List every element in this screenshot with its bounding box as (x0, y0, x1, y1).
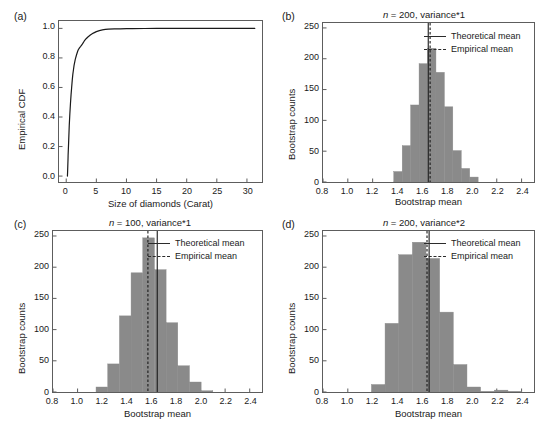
ytick-label: 150 (19, 292, 49, 302)
ytick-label: 200 (289, 261, 319, 271)
panel-a-curve-svg (59, 21, 262, 182)
xtick-label: 1.6 (408, 186, 436, 196)
xtick-label: 1.2 (358, 396, 386, 406)
ytick-label: 0 (19, 387, 49, 397)
panel-c-title-rest: = 100, variance*1 (114, 217, 191, 228)
xtick-label: 2.4 (508, 186, 536, 196)
panel-a-tag: (a) (14, 10, 27, 22)
ytick-label: 0 (289, 387, 319, 397)
xtick-label: 1.8 (433, 186, 461, 196)
ytick-label: 50 (289, 355, 319, 365)
panel-c: (c) n = 100, variance*1 Bootstrap counts… (0, 212, 274, 430)
xtick-label: 1.8 (162, 396, 190, 406)
legend-label-theoretical: Theoretical mean (451, 237, 521, 250)
xtick-label: 0.8 (38, 396, 66, 406)
legend-label-theoretical: Theoretical mean (175, 237, 245, 250)
xtick-label: 2.2 (483, 396, 511, 406)
panel-c-xlabel: Bootstrap mean (52, 408, 263, 419)
xtick-label: 1.4 (383, 186, 411, 196)
legend-label-theoretical: Theoretical mean (451, 30, 521, 43)
ytick-label: 250 (289, 21, 319, 31)
panel-c-title: n = 100, variance*1 (45, 217, 255, 228)
xtick-label: 2.4 (508, 396, 536, 406)
xtick-label: 1.0 (333, 396, 361, 406)
ytick-label: 200 (19, 261, 49, 271)
legend-label-empirical: Empirical mean (175, 250, 237, 263)
xtick-label: 2.4 (237, 396, 265, 406)
panel-b-title: n = 200, variance*1 (319, 9, 529, 20)
ytick-label: 100 (289, 115, 319, 125)
xtick-label: 1.2 (358, 186, 386, 196)
figure-root: (a) Empirical CDF 051015202530 0.00.20.4… (0, 0, 548, 430)
xtick-label: 2.2 (212, 396, 240, 406)
xtick-label: 2.0 (187, 396, 215, 406)
xtick-label: 0.8 (308, 186, 336, 196)
legend-dashed-line-icon (424, 256, 446, 257)
ytick-label: 0.6 (25, 81, 55, 91)
ytick-label: 0.2 (25, 141, 55, 151)
xtick-label: 30 (234, 186, 262, 196)
ytick-label: 1.0 (25, 21, 55, 31)
xtick-label: 0.8 (308, 396, 336, 406)
xtick-label: 2.0 (458, 396, 486, 406)
legend-dashed-line-icon (148, 256, 170, 257)
ytick-label: 0 (289, 177, 319, 187)
xtick-label: 20 (173, 186, 201, 196)
ytick-label: 250 (19, 229, 49, 239)
ytick-label: 250 (289, 229, 319, 239)
xtick-label: 1.0 (333, 186, 361, 196)
panel-a-xlabel: Size of diamonds (Carat) (58, 198, 263, 209)
ytick-label: 0.0 (25, 171, 55, 181)
panel-a-plot-area (58, 20, 263, 183)
ytick-label: 150 (289, 83, 319, 93)
ytick-label: 200 (289, 52, 319, 62)
xtick-label: 10 (112, 186, 140, 196)
xtick-label: 1.4 (383, 396, 411, 406)
xtick-label: 1.8 (433, 396, 461, 406)
ytick-label: 50 (19, 355, 49, 365)
legend-solid-line-icon (424, 243, 446, 244)
panel-b-xlabel: Bootstrap mean (322, 196, 535, 207)
xtick-label: 1.6 (137, 396, 165, 406)
xtick-label: 2.2 (483, 186, 511, 196)
xtick-label: 5 (82, 186, 110, 196)
xtick-label: 1.6 (408, 396, 436, 406)
ytick-label: 0.8 (25, 51, 55, 61)
panel-a: (a) Empirical CDF 051015202530 0.00.20.4… (0, 0, 274, 212)
legend-label-empirical: Empirical mean (451, 250, 513, 263)
ytick-label: 100 (289, 324, 319, 334)
ytick-label: 150 (289, 292, 319, 302)
legend-solid-line-icon (148, 243, 170, 244)
xtick-label: 15 (143, 186, 171, 196)
ytick-label: 0.4 (25, 111, 55, 121)
xtick-label: 0 (51, 186, 79, 196)
legend-dashed-line-icon (424, 49, 446, 50)
legend-label-empirical: Empirical mean (451, 43, 513, 56)
xtick-label: 1.0 (63, 396, 91, 406)
legend-solid-line-icon (424, 36, 446, 37)
ytick-label: 100 (19, 324, 49, 334)
panel-d-title: n = 200, variance*2 (319, 217, 529, 228)
panel-d-xlabel: Bootstrap mean (322, 408, 535, 419)
panel-d: (d) n = 200, variance*2 Bootstrap counts… (274, 212, 548, 430)
xtick-label: 1.4 (112, 396, 140, 406)
ytick-label: 50 (289, 146, 319, 156)
xtick-label: 1.2 (88, 396, 116, 406)
panel-b: (b) n = 200, variance*1 Bootstrap counts… (274, 0, 548, 212)
xtick-label: 2.0 (458, 186, 486, 196)
xtick-label: 25 (203, 186, 231, 196)
panel-d-title-rest: = 200, variance*2 (388, 217, 465, 228)
panel-b-title-rest: = 200, variance*1 (388, 9, 465, 20)
